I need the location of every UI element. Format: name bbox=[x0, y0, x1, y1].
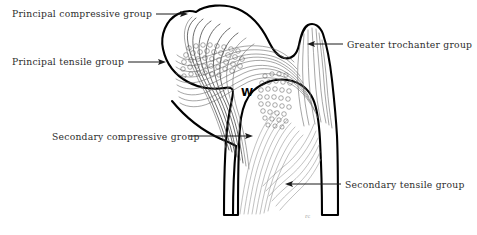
femur-diagram-svg: Principal compressive group Principal te… bbox=[0, 0, 477, 235]
label-greater-trochanter-group: Greater trochanter group bbox=[347, 39, 472, 50]
secondary-compressive-trabeculae bbox=[240, 111, 303, 214]
label-principal-compressive-group: Principal compressive group bbox=[12, 8, 152, 19]
artist-signature: rc bbox=[305, 213, 310, 219]
label-principal-tensile-group: Principal tensile group bbox=[12, 56, 124, 67]
wards-triangle-marker: W bbox=[241, 86, 253, 99]
secondary-tensile-trabeculae bbox=[263, 124, 321, 210]
femur-trabecular-figure: Principal compressive group Principal te… bbox=[0, 0, 477, 235]
label-secondary-tensile-group: Secondary tensile group bbox=[345, 179, 465, 190]
label-secondary-compressive-group: Secondary compressive group bbox=[52, 131, 200, 142]
